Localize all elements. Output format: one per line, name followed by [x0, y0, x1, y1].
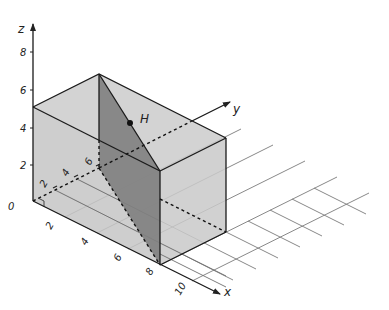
y-axis — [190, 102, 230, 122]
point-h-label: H — [140, 112, 149, 126]
z-tick-8: 8 — [20, 47, 26, 58]
z-axis-label: z — [17, 22, 25, 36]
point-h-marker — [127, 120, 133, 126]
x-tick-2: 2 — [43, 220, 56, 231]
y-axis-label: y — [232, 102, 241, 116]
x-tick-10: 10 — [172, 280, 188, 297]
z-tick-0: 0 — [8, 201, 14, 212]
x-tick-4: 4 — [78, 236, 91, 247]
z-tick-6: 6 — [20, 85, 26, 96]
z-tick-4: 4 — [20, 123, 26, 134]
z-tick-2: 2 — [20, 160, 26, 171]
x-tick-8: 8 — [143, 266, 156, 277]
x-tick-6: 6 — [111, 252, 124, 263]
x-axis-label: x — [223, 285, 232, 299]
diagram-canvas: 8 6 4 2 0 z 2 4 6 y 2 4 6 8 10 x H — [0, 0, 389, 310]
